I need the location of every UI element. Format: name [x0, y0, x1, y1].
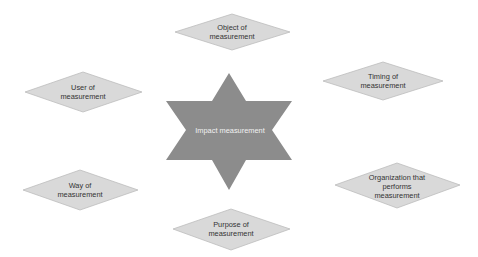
impact-label: Impact measurement [180, 124, 280, 136]
timing-label: Timing of measurement [348, 67, 418, 95]
organization-label: Organization that performs measurement [360, 168, 434, 204]
way-label: Way of measurement [48, 176, 112, 204]
user-label: User of measurement [50, 78, 116, 106]
object-label: Object of measurement [195, 18, 269, 46]
purpose-label: Purpose of measurement [196, 215, 266, 243]
